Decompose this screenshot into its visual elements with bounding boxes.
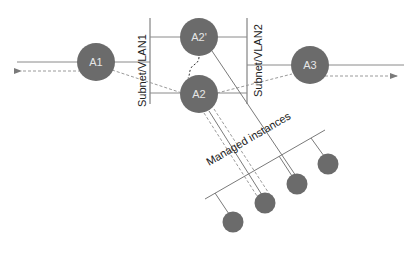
node-a3-label: A3: [303, 59, 316, 71]
node-a1-label: A1: [89, 56, 102, 68]
managed-instance-2: [255, 193, 276, 214]
managed-instance-3: [287, 174, 308, 195]
instance-branch-4: [311, 138, 324, 156]
subnet-vlan2-label: Subnet/VLAN2: [252, 24, 264, 97]
subnet-vlan1-label: Subnet/VLAN1: [136, 34, 148, 107]
node-a2-prime-label: A2': [191, 31, 207, 43]
managed-instance-4: [318, 154, 339, 175]
managed-instances-label: Managed instances: [204, 109, 293, 167]
network-diagram: A1 A2' A2 A3 Subnet/VLAN1 Subnet/VLAN2 M…: [0, 0, 416, 255]
node-a2-label: A2: [192, 88, 205, 100]
managed-instances-bus: [205, 130, 325, 199]
failover-link: [188, 57, 199, 78]
instance-branch-1: [215, 193, 229, 214]
instance-branch-3: [279, 156, 292, 176]
managed-instance-1: [223, 212, 244, 233]
